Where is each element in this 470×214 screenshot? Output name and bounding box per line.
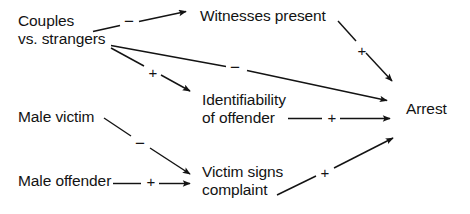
node-male-offender-line1: Male offender <box>18 172 111 189</box>
edge-sign-male-victim-to-victim-signs: − <box>133 136 147 151</box>
edge-sign-couples-to-identifiability: + <box>146 65 160 80</box>
edge-sign-male-offender-to-victim-signs: + <box>144 174 158 189</box>
node-witnesses-present-line1: Witnesses present <box>200 7 326 24</box>
node-identifiability-of-offender-line1: Identifiability <box>202 91 286 108</box>
node-arrest: Arrest <box>406 100 447 118</box>
path-diagram-canvas: Couplesvs. strangers Witnesses present I… <box>0 0 470 214</box>
node-arrest-line1: Arrest <box>406 100 447 117</box>
node-victim-signs-complaint: Victim signscomplaint <box>202 163 283 199</box>
node-couples-vs-strangers-line1: Couples <box>18 12 74 29</box>
node-victim-signs-complaint-line2: complaint <box>202 181 267 198</box>
node-witnesses-present: Witnesses present <box>200 7 326 25</box>
node-identifiability-of-offender: Identifiabilityof offender <box>202 91 286 127</box>
edge-victim-signs-to-arrest <box>277 138 393 195</box>
node-male-offender: Male offender <box>18 172 111 190</box>
node-couples-vs-strangers: Couplesvs. strangers <box>18 12 105 48</box>
node-identifiability-of-offender-line2: of offender <box>202 109 275 126</box>
node-male-victim: Male victim <box>18 108 94 126</box>
edge-sign-couples-to-arrest: − <box>228 60 242 75</box>
edge-sign-victim-signs-to-arrest: + <box>318 165 332 180</box>
edge-couples-to-witnesses <box>93 12 186 32</box>
node-couples-vs-strangers-line2: vs. strangers <box>18 30 105 47</box>
edge-male-victim-to-victim-signs <box>104 118 190 174</box>
edge-sign-identifiability-to-arrest: + <box>325 110 339 125</box>
edge-sign-witnesses-to-arrest: + <box>355 43 369 58</box>
node-victim-signs-complaint-line1: Victim signs <box>202 163 283 180</box>
edge-sign-couples-to-witnesses: − <box>122 14 136 29</box>
node-male-victim-line1: Male victim <box>18 108 94 125</box>
